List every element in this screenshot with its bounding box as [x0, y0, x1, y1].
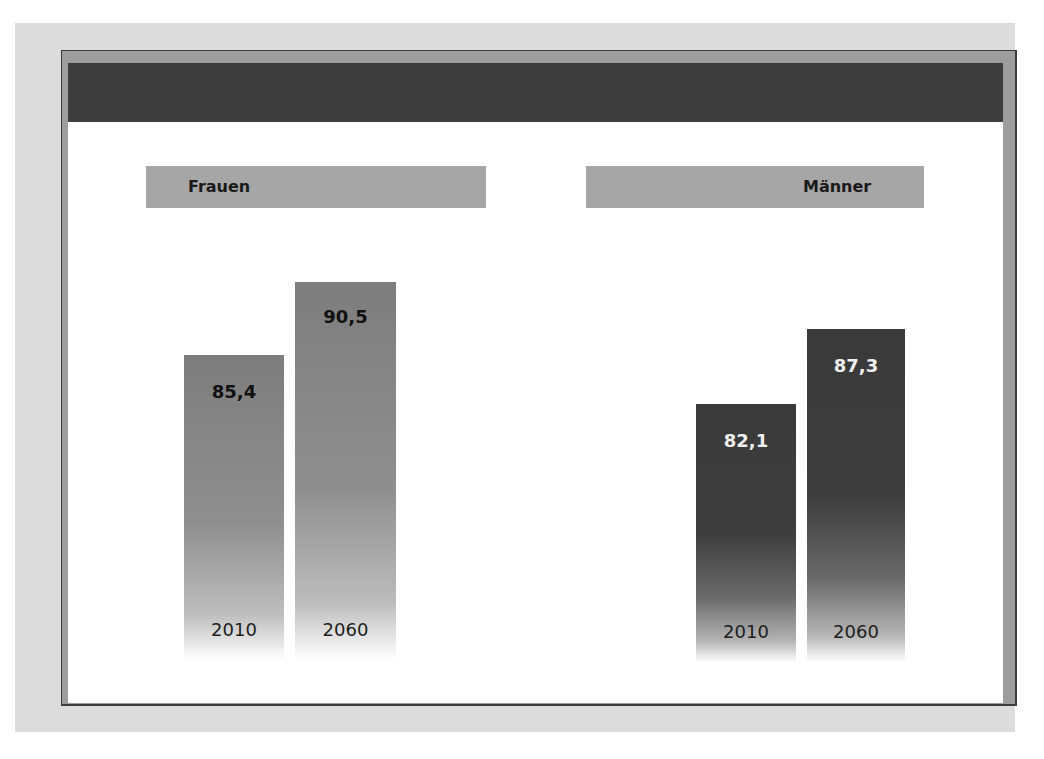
group-label-frauen: Frauen: [146, 166, 486, 208]
group-label-text: Männer: [803, 166, 871, 208]
bar-frauen-2060: 90,5 2060: [295, 282, 396, 660]
bar-value-label: 87,3: [807, 355, 905, 376]
bar-value-label: 82,1: [696, 430, 796, 451]
group-label-text: Frauen: [188, 166, 250, 208]
bar-maenner-2010: 82,1 2010: [696, 404, 796, 662]
chart-header-bar: [68, 63, 1003, 122]
bar-value-label: 90,5: [295, 306, 396, 327]
bar-year-label: 2010: [184, 619, 284, 640]
bar-frauen-2010: 85,4 2010: [184, 355, 284, 660]
group-label-maenner: Männer: [586, 166, 924, 208]
bar-maenner-2060: 87,3 2060: [807, 329, 905, 662]
bar-year-label: 2060: [807, 621, 905, 642]
bar-year-label: 2060: [295, 619, 396, 640]
bar-year-label: 2010: [696, 621, 796, 642]
bar-value-label: 85,4: [184, 381, 284, 402]
